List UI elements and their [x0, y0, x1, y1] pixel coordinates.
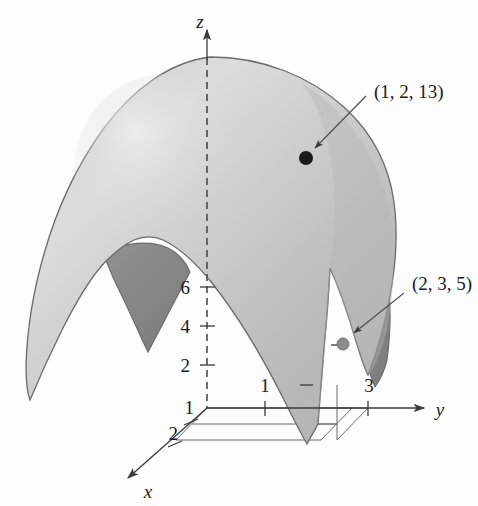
base-plane-grid: [176, 385, 368, 440]
surface-outer-sheet: [26, 57, 396, 444]
z-tick-label-4: 4: [181, 316, 191, 337]
data-point-label-1: (1, 2, 13): [374, 81, 444, 103]
y-axis-label: y: [434, 399, 445, 420]
data-point-marker-1: [299, 151, 313, 165]
figure-container: z y x 6 4 2 1 3 1 2 (1, 2, 13) (2, 3, 5): [0, 0, 478, 506]
data-point-label-2: (2, 3, 5): [412, 273, 472, 295]
surface-plot-svg: z y x 6 4 2 1 3 1 2 (1, 2, 13) (2, 3, 5): [0, 0, 478, 506]
data-point-marker-2: [337, 338, 349, 350]
x-axis-label: x: [143, 481, 153, 502]
z-tick-label-6: 6: [181, 277, 191, 298]
y-tick-label-3: 3: [364, 375, 374, 396]
z-axis-label: z: [195, 11, 204, 32]
z-tick-label-2: 2: [181, 355, 191, 376]
x-tick-label-2: 2: [169, 423, 179, 444]
x-tick-label-1: 1: [185, 397, 195, 418]
x-axis-line: [128, 408, 207, 478]
y-tick-label-1: 1: [260, 375, 270, 396]
